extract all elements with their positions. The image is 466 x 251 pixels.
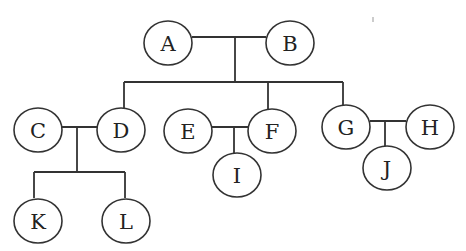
node-label: J [381,157,391,181]
node-label: C [30,119,46,143]
node-label: E [180,120,195,144]
node-A: A [144,21,192,65]
node-F: F [248,109,296,153]
node-label: G [338,116,355,140]
node-H: H [406,105,454,149]
node-J: J [363,146,411,190]
node-D: D [97,108,145,152]
node-label: I [233,164,241,188]
node-label: F [265,120,280,144]
node-G: G [322,105,370,149]
node-label: B [282,32,297,56]
node-label: H [421,116,439,140]
node-K: K [14,199,62,243]
node-C: C [14,108,62,152]
cropped-caption [0,0,466,2]
node-B: B [266,21,314,65]
node-L: L [102,199,150,243]
node-label: D [113,119,130,143]
node-label: K [30,210,46,234]
node-E: E [164,109,212,153]
family-tree-diagram: ABCDEFGHIJKL [0,0,466,251]
node-I: I [213,153,261,197]
node-label: A [159,32,176,56]
node-label: L [119,210,133,234]
